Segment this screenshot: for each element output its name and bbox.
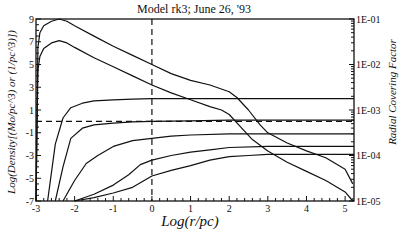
y-tick-label: 3: [29, 82, 34, 93]
y-tick-label: 5: [29, 59, 34, 70]
series-line: [75, 154, 354, 201]
y-tick-label: -5: [26, 173, 34, 184]
series-line: [48, 99, 354, 201]
x-tick-label: -2: [70, 203, 78, 214]
x-tick-label: 0: [149, 203, 154, 214]
plot-border: [36, 19, 354, 201]
y-tick-label: -3: [26, 150, 34, 161]
chart-title: Model rk3; June 26, '93: [137, 2, 251, 16]
plot-frame: [36, 19, 354, 201]
series-line: [63, 134, 354, 201]
y-tick-label: -1: [26, 127, 34, 138]
y2-axis-label: Radial Covering Factor: [386, 38, 398, 145]
axis-ticks: [36, 19, 354, 201]
chart-canvas: -3-2-101234597531-1-3-5-71E-011E-021E-03…: [0, 0, 402, 234]
cropped-caption-fragment: [40, 231, 340, 234]
series-line: [36, 19, 353, 201]
y2-tick-label: 1E-03: [356, 105, 380, 116]
series-line: [55, 120, 354, 201]
y2-tick-label: 1E-02: [356, 59, 380, 70]
x-tick-label: 5: [343, 203, 348, 214]
y2-tick-label: 1E-05: [356, 196, 380, 207]
y-tick-label: 7: [29, 36, 34, 47]
x-tick-label: 3: [265, 203, 270, 214]
x-tick-label: -1: [109, 203, 117, 214]
x-axis-label: Log(r/pc): [160, 213, 219, 230]
y-tick-label: 1: [29, 105, 34, 116]
tick-labels: -3-2-101234597531-1-3-5-71E-011E-021E-03…: [26, 14, 381, 215]
y-tick-label: 9: [29, 14, 34, 25]
x-tick-label: 4: [304, 203, 309, 214]
reference-lines: [36, 19, 354, 201]
y2-tick-label: 1E-04: [356, 150, 380, 161]
y-tick-label: -7: [26, 196, 34, 207]
y-axis-label: Log(Density[(Mo/pc^3) or (1/pc^3)]): [5, 30, 18, 195]
data-series: [36, 19, 354, 201]
y2-tick-label: 1E-01: [356, 14, 380, 25]
x-tick-label: 2: [227, 203, 232, 214]
